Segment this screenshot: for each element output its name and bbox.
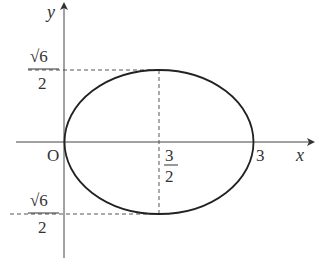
x-axis-label: x (295, 145, 304, 165)
bottom-label-numerator: √6 (30, 191, 48, 210)
x-intercept-label: 3 (256, 146, 265, 165)
center-x-numerator: 3 (165, 146, 174, 165)
center-x-denominator: 2 (165, 167, 174, 186)
diagram-canvas: y x O 3 3 2 √6 2 √6 2 (0, 0, 318, 263)
origin-label: O (47, 146, 59, 165)
y-axis-label: y (45, 2, 55, 22)
top-label-numerator: √6 (30, 47, 48, 66)
bottom-label-denominator: 2 (38, 218, 47, 237)
top-label-denominator: 2 (38, 74, 47, 93)
